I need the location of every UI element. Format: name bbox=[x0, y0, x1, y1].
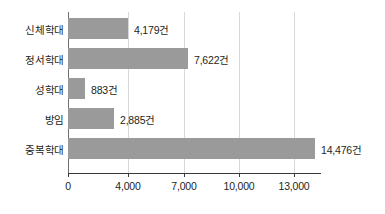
category-label-3: 방임 bbox=[0, 112, 64, 127]
bar-4[interactable] bbox=[68, 138, 315, 159]
bar-chart: 신체학대 정서학대 성학대 방임 중복학대 4,179건 7,622건 883건… bbox=[0, 0, 385, 214]
bar-2[interactable] bbox=[68, 78, 85, 99]
tick-mark-7000 bbox=[184, 173, 185, 177]
tick-mark-10000 bbox=[239, 173, 240, 177]
x-tick-label-1: 4,000 bbox=[115, 180, 140, 192]
bar-row: 4,179건 bbox=[68, 18, 378, 39]
bar-row: 14,476건 bbox=[68, 138, 378, 159]
category-label-2: 성학대 bbox=[0, 82, 64, 97]
x-tick-label-4: 13,000 bbox=[279, 180, 310, 192]
category-label-1: 정서학대 bbox=[0, 52, 64, 67]
bar-3[interactable] bbox=[68, 108, 114, 129]
tick-mark-0 bbox=[68, 173, 69, 177]
tick-mark-4000 bbox=[128, 173, 129, 177]
bar-0[interactable] bbox=[68, 18, 128, 39]
x-axis-line bbox=[68, 173, 321, 174]
bar-row: 7,622건 bbox=[68, 48, 378, 69]
x-tick-label-0: 0 bbox=[65, 180, 71, 192]
bar-row: 883건 bbox=[68, 78, 378, 99]
bar-row: 2,885건 bbox=[68, 108, 378, 129]
category-label-0: 신체학대 bbox=[0, 22, 64, 37]
category-label-4: 중복학대 bbox=[0, 142, 64, 157]
tick-mark-13000 bbox=[294, 173, 295, 177]
x-tick-label-3: 10,000 bbox=[224, 180, 255, 192]
bar-value-label-0: 4,179건 bbox=[134, 21, 169, 36]
bar-value-label-2: 883건 bbox=[91, 81, 118, 96]
bar-value-label-1: 7,622건 bbox=[194, 51, 229, 66]
x-tick-label-2: 7,000 bbox=[171, 180, 196, 192]
bar-value-label-4: 14,476건 bbox=[321, 141, 362, 156]
bar-1[interactable] bbox=[68, 48, 188, 69]
bar-value-label-3: 2,885건 bbox=[120, 111, 155, 126]
